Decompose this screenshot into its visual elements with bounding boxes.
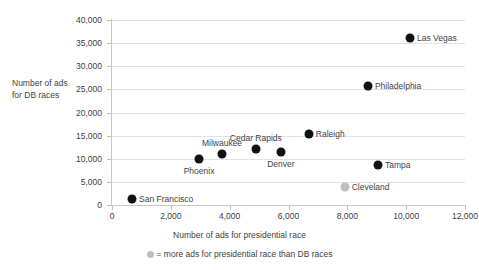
gridline	[112, 43, 465, 44]
data-point-label: San Francisco	[139, 195, 193, 204]
x-tick-label: 8,000	[337, 212, 358, 221]
y-tick-label: 10,000	[44, 155, 102, 164]
x-tick-mark	[230, 206, 231, 210]
x-tick-label: 12,000	[452, 212, 478, 221]
data-point[interactable]	[363, 81, 372, 90]
y-axis-title-line-1: Number of ads	[12, 78, 104, 90]
x-tick-label: 10,000	[393, 212, 419, 221]
y-tick-mark	[107, 20, 112, 21]
x-tick-mark	[347, 206, 348, 210]
data-point-label: Raleigh	[316, 130, 345, 139]
gridline	[112, 136, 465, 137]
y-tick-label: 5,000	[44, 178, 102, 187]
gridline	[112, 20, 465, 21]
x-tick-mark	[112, 206, 113, 210]
data-point[interactable]	[405, 34, 414, 43]
data-point-label: Cleveland	[352, 183, 390, 192]
y-tick-label: 0	[44, 201, 102, 210]
y-tick-mark	[107, 113, 112, 114]
x-tick-label: 0	[110, 212, 115, 221]
y-tick-label: 40,000	[44, 16, 102, 25]
plot-area	[112, 20, 465, 205]
y-axis-title: Number of ads for DB races	[12, 78, 104, 101]
scatter-chart: 05,00010,00015,00020,00025,00030,00035,0…	[0, 0, 479, 270]
data-point[interactable]	[128, 194, 137, 203]
x-tick-label: 6,000	[278, 212, 299, 221]
gridline	[112, 182, 465, 183]
y-tick-mark	[107, 89, 112, 90]
x-tick-mark	[289, 206, 290, 210]
data-point[interactable]	[304, 130, 313, 139]
data-point[interactable]	[276, 148, 285, 157]
x-tick-label: 2,000	[160, 212, 181, 221]
x-tick-mark	[171, 206, 172, 210]
data-point-label: Phoenix	[184, 167, 215, 176]
y-tick-mark	[107, 136, 112, 137]
data-point[interactable]	[195, 155, 204, 164]
y-tick-label: 20,000	[44, 109, 102, 118]
x-tick-mark	[465, 206, 466, 210]
y-tick-label: 30,000	[44, 62, 102, 71]
data-point[interactable]	[373, 160, 382, 169]
y-tick-label: 15,000	[44, 132, 102, 141]
data-point-label: Cedar Rapids	[230, 134, 282, 143]
light-gray-dot-icon	[147, 251, 154, 258]
chart-legend: = more ads for presidential race than DB…	[0, 250, 479, 259]
y-axis-title-line-2: for DB races	[12, 90, 104, 102]
x-axis-title: Number of ads for presidential race	[0, 231, 479, 240]
gridline	[112, 66, 465, 67]
y-tick-mark	[107, 66, 112, 67]
y-tick-mark	[107, 182, 112, 183]
y-tick-label: 35,000	[44, 39, 102, 48]
x-tick-label: 4,000	[219, 212, 240, 221]
x-tick-mark	[406, 206, 407, 210]
data-point-label: Las Vegas	[417, 34, 457, 43]
data-point-label: Denver	[267, 160, 294, 169]
legend-entry: = more ads for presidential race than DB…	[147, 250, 333, 259]
data-point-label: Philadelphia	[375, 82, 421, 91]
data-point[interactable]	[340, 182, 349, 191]
y-tick-mark	[107, 159, 112, 160]
legend-entry-label: = more ads for presidential race than DB…	[157, 250, 333, 259]
data-point[interactable]	[251, 145, 260, 154]
data-point-label: Tampa	[385, 161, 411, 170]
data-point[interactable]	[218, 150, 227, 159]
gridline	[112, 113, 465, 114]
y-tick-mark	[107, 43, 112, 44]
